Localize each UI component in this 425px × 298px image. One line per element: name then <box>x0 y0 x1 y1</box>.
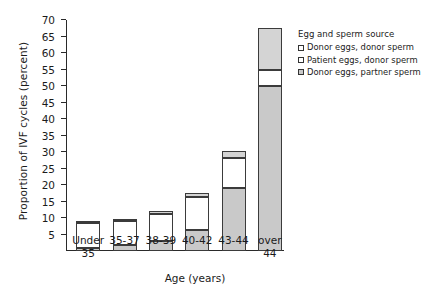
legend-item-label: Patient eggs, donor sperm <box>307 54 418 66</box>
y-tick-label: 60 <box>42 47 55 59</box>
bar-segment <box>185 193 209 196</box>
y-tick: 45 <box>61 102 66 103</box>
y-tick: 50 <box>61 85 66 86</box>
legend: Egg and sperm source Donor eggs, donor s… <box>298 28 424 79</box>
y-tick: 65 <box>61 36 66 37</box>
y-tick-label: 35 <box>42 130 55 142</box>
y-tick-label: 65 <box>42 31 55 43</box>
legend-items: Donor eggs, donor spermPatient eggs, don… <box>298 41 424 78</box>
y-tick: 40 <box>61 118 66 119</box>
y-tick-label: 5 <box>48 229 55 241</box>
bar-segment <box>113 219 137 221</box>
y-tick-label: 15 <box>42 196 55 208</box>
bar-segment <box>258 28 282 69</box>
plot-area: 510152025303540455055606570 <box>66 20 284 251</box>
legend-swatch-icon <box>298 45 304 51</box>
y-tick: 55 <box>61 69 66 70</box>
x-axis-title: Age (years) <box>120 272 270 284</box>
legend-item: Donor eggs, donor sperm <box>298 41 424 53</box>
bar-segment <box>222 151 246 157</box>
legend-swatch-icon <box>298 57 304 63</box>
bar-segment <box>76 221 100 223</box>
legend-item: Donor eggs, partner sperm <box>298 66 424 78</box>
bar-segment <box>258 70 282 87</box>
y-tick: 30 <box>61 151 66 152</box>
y-tick: 15 <box>61 201 66 202</box>
y-tick-label: 70 <box>42 14 55 26</box>
legend-item: Patient eggs, donor sperm <box>298 54 424 66</box>
y-tick-label: 55 <box>42 64 55 76</box>
bar <box>258 28 282 251</box>
x-tick-label: over44 <box>242 234 298 259</box>
y-tick-label: 45 <box>42 97 55 109</box>
y-tick: 20 <box>61 184 66 185</box>
y-tick: 25 <box>61 168 66 169</box>
y-tick-label: 10 <box>42 212 55 224</box>
y-tick: 10 <box>61 217 66 218</box>
y-tick-label: 20 <box>42 179 55 191</box>
bar-segment <box>185 197 209 231</box>
bar-segment <box>149 211 173 213</box>
legend-item-label: Donor eggs, partner sperm <box>307 66 421 78</box>
y-tick-label: 40 <box>42 113 55 125</box>
legend-title: Egg and sperm source <box>298 28 424 40</box>
y-tick-label: 25 <box>42 163 55 175</box>
y-tick-label: 50 <box>42 80 55 92</box>
legend-swatch-icon <box>298 69 304 75</box>
y-tick: 70 <box>61 19 66 20</box>
y-axis-line <box>66 20 67 251</box>
y-tick: 60 <box>61 52 66 53</box>
bar-segment <box>222 158 246 189</box>
ivf-cycles-stacked-bar-chart: Proportion of IVF cycles (percent) 51015… <box>0 0 425 298</box>
legend-item-label: Donor eggs, donor sperm <box>307 41 414 53</box>
y-tick: 35 <box>61 135 66 136</box>
bar-segment <box>258 86 282 251</box>
y-axis-title: Proportion of IVF cycles (percent) <box>17 16 29 246</box>
y-tick-label: 30 <box>42 146 55 158</box>
